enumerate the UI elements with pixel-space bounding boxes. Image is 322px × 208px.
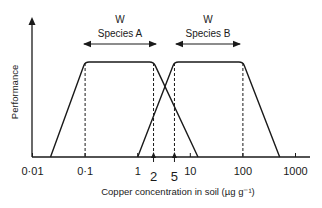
x-tick-label: 0·1 xyxy=(77,165,93,177)
tolerance-label-w: W xyxy=(203,14,213,25)
dashed-guides xyxy=(85,63,243,157)
x-tick-label: 100 xyxy=(234,165,252,177)
species-label: Species B xyxy=(185,28,230,39)
x-tick-label: 10 xyxy=(184,165,196,177)
x-axis-title: Copper concentration in soil (µg g⁻¹) xyxy=(101,186,255,197)
curve-species-b xyxy=(138,62,280,157)
marker-label: 2 xyxy=(150,169,157,184)
y-axis-arrowhead xyxy=(29,17,36,25)
tolerance-label-w: W xyxy=(115,14,125,25)
curve-species-a xyxy=(51,62,198,157)
marker-arrowhead xyxy=(172,152,177,158)
marker-label: 5 xyxy=(171,169,178,184)
x-tick-label: 0·01 xyxy=(21,165,43,177)
marker-arrowhead xyxy=(151,152,156,158)
tolerance-ranges: WSpecies AWSpecies B xyxy=(84,14,240,44)
species-label: Species A xyxy=(98,28,143,39)
chart: Performance Copper concentration in soil… xyxy=(0,0,322,208)
x-tick-label: 1000 xyxy=(283,165,307,177)
y-axis-title: Performance xyxy=(9,65,20,119)
x-tick-label: 1 xyxy=(135,165,141,177)
